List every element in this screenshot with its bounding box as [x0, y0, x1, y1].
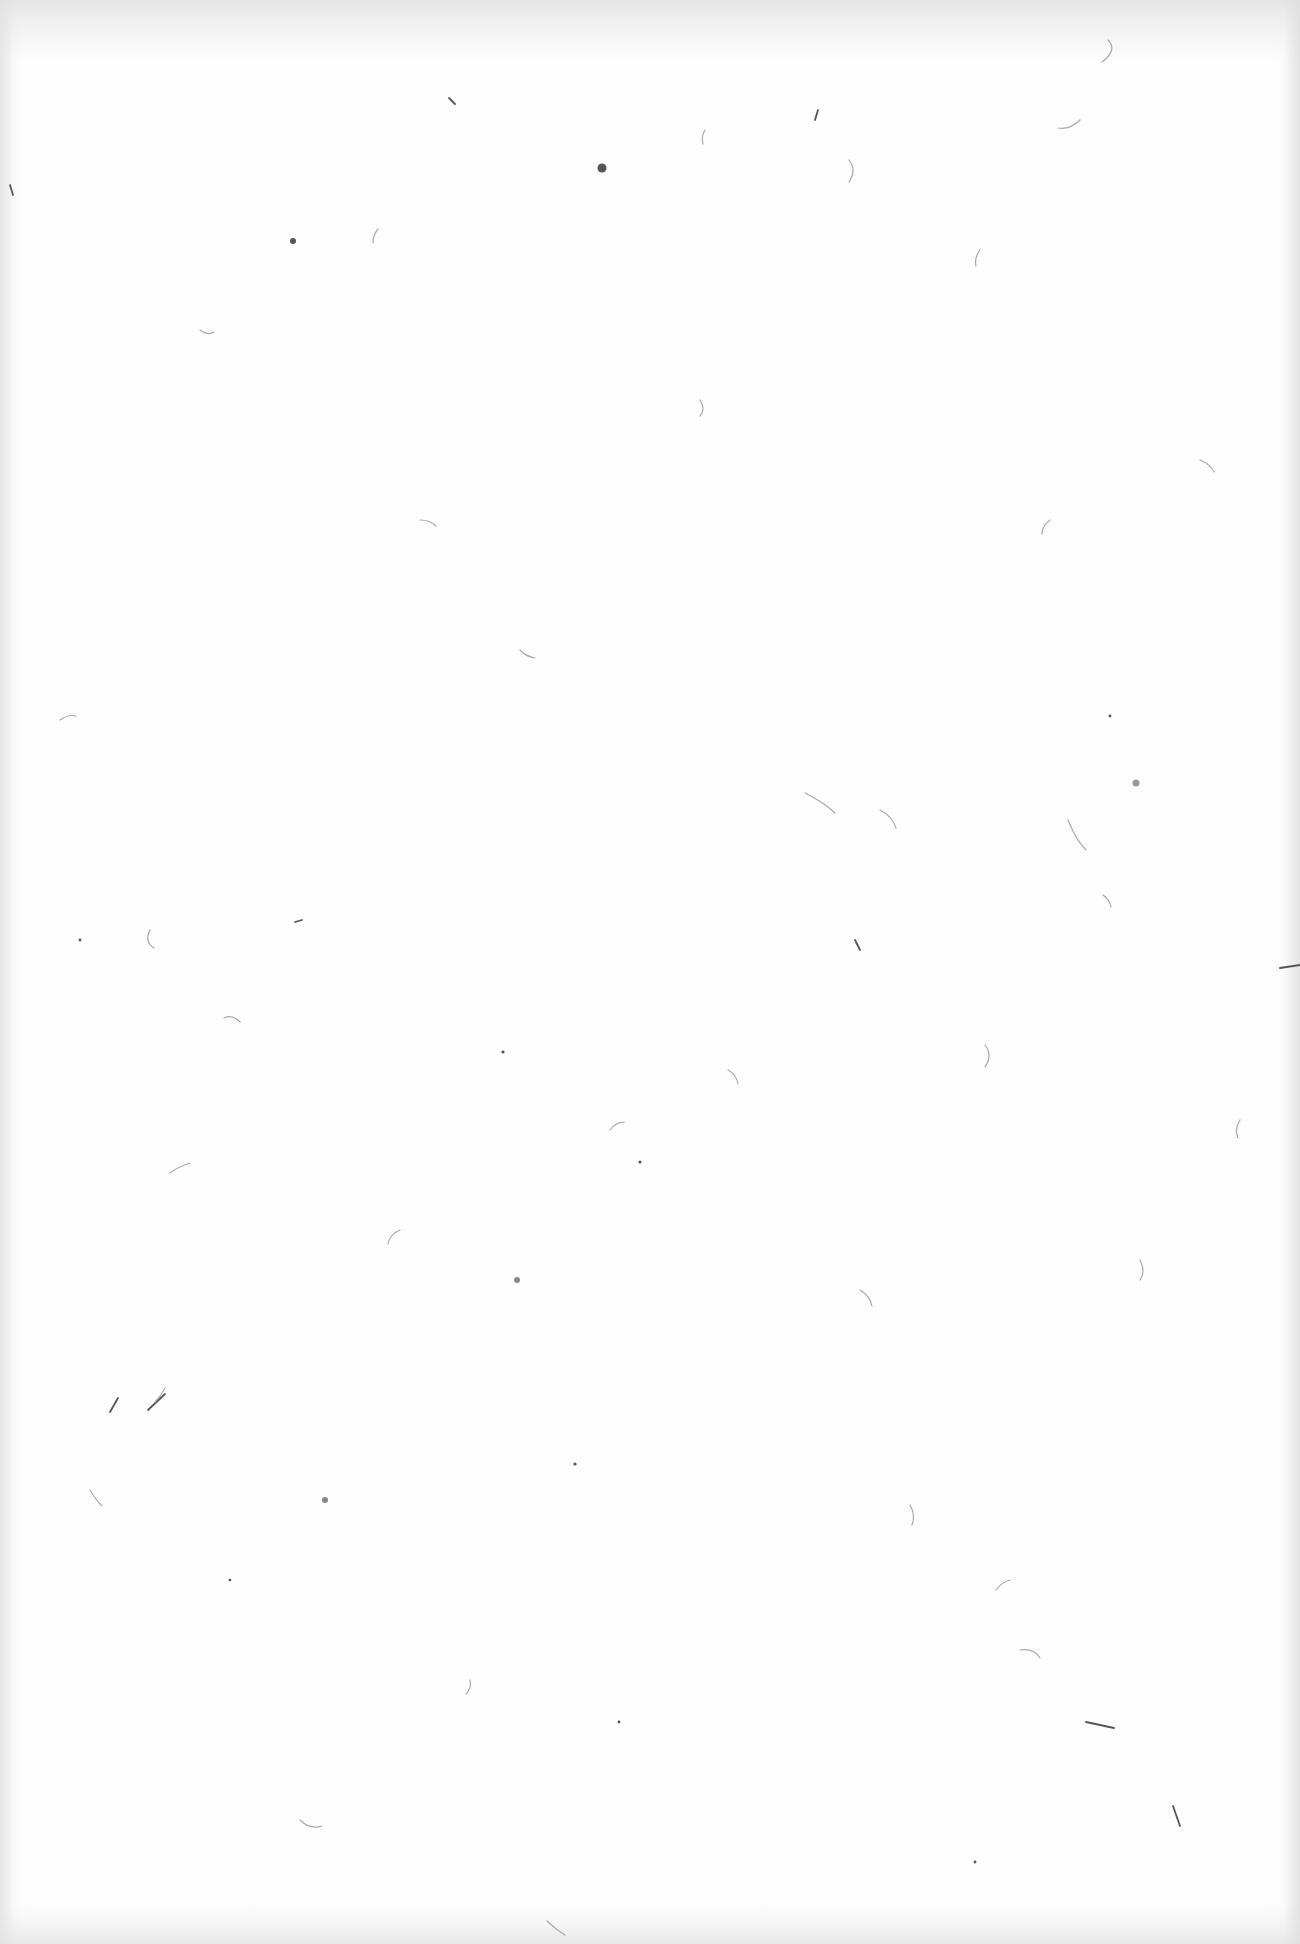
paper-sheet [0, 0, 1300, 1944]
paper-fibers [0, 0, 1300, 1944]
